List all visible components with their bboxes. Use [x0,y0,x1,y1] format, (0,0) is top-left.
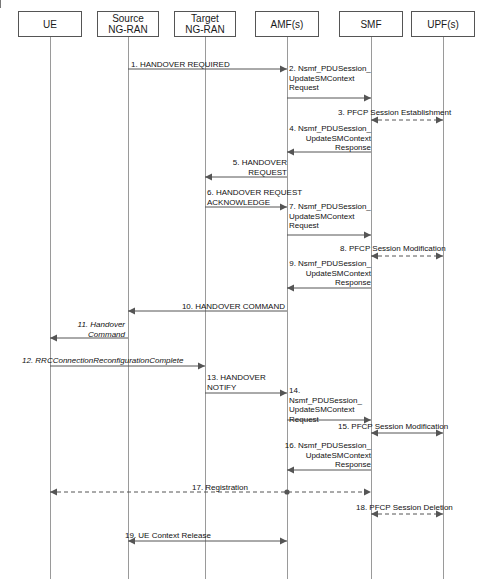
arrowhead-right-17 [364,489,371,496]
message-waypoint-dot-17-0 [284,489,289,494]
arrowhead-right-3 [436,117,443,124]
message-label-5: 5. HANDOVER REQUEST [207,158,287,177]
message-label-18: 18. PFCP Session Deletion [356,503,486,513]
arrowhead-right-8 [436,253,443,260]
message-arrow-3 [371,117,443,124]
message-label-4: 4. Nsmf_PDUSession_ UpdateSMContext Resp… [278,124,371,153]
message-label-12: 12. RRCConnectionReconfigurationComplete [22,356,212,366]
arrowhead-10 [128,308,135,315]
arrowhead-left-3 [371,117,378,124]
message-label-13: 13. HANDOVER NOTIFY [207,373,282,392]
arrowhead-right-19 [280,538,287,545]
message-label-15: 15. PFCP Session Modification [338,422,486,432]
message-label-14: 14. Nsmf_PDUSession_ UpdateSMContext Req… [289,386,375,424]
message-arrow-8 [371,253,443,260]
message-arrow-2 [287,95,371,102]
arrowhead-2 [364,95,371,102]
message-label-11: 11. Handover Command [52,320,125,339]
message-label-7: 7. Nsmf_PDUSession_ UpdateSMContext Requ… [289,202,373,231]
arrowhead-1 [280,66,287,73]
message-label-16: 16. Nsmf_PDUSession_ UpdateSMContext Res… [278,441,371,470]
arrowhead-left-8 [371,253,378,260]
message-arrow-7 [287,232,371,239]
message-label-2: 2. Nsmf_PDUSession_ UpdateSMContext Requ… [289,64,371,93]
message-label-10: 10. HANDOVER COMMAND [160,302,285,312]
message-label-9: 9. Nsmf_PDUSession_ UpdateSMContext Resp… [278,259,371,288]
message-label-3: 3. PFCP Session Establishment [338,108,488,118]
message-label-1: 1. HANDOVER REQUIRED [131,60,281,70]
arrowhead-7 [364,232,371,239]
sequence-diagram-canvas: UESource NG-RANTarget NG-RANAMF(s)SMFUPF… [0,0,491,579]
arrowhead-left-17 [50,489,57,496]
message-label-8: 8. PFCP Session Modification [340,244,486,254]
message-label-17: 17. Registration [175,483,265,493]
message-label-19: 19. UE Context Release [125,531,235,541]
